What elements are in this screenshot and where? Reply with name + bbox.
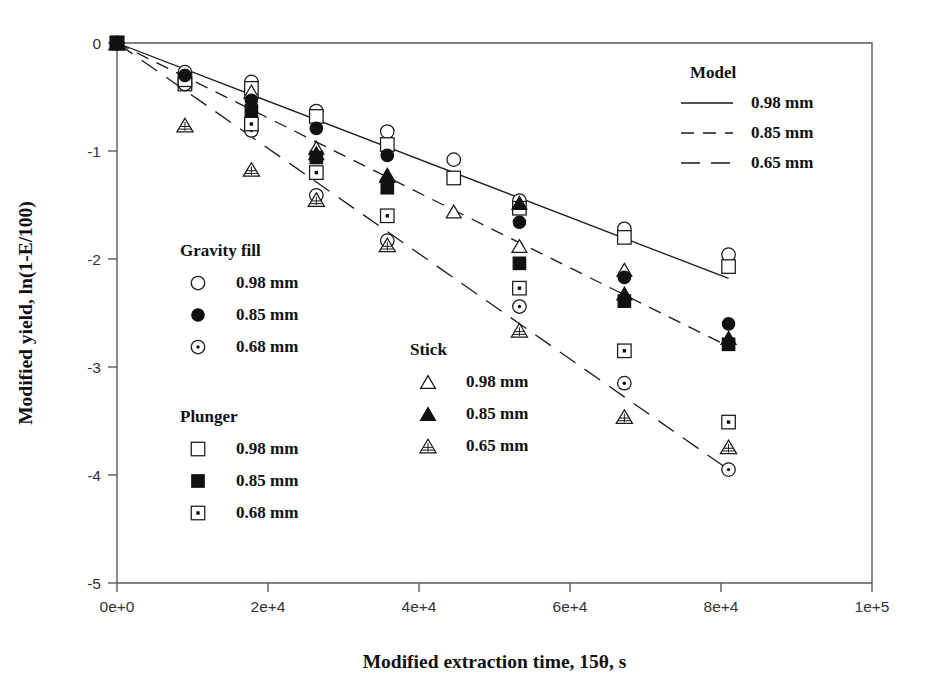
data-point bbox=[380, 169, 395, 182]
y-tick-label: 0 bbox=[92, 35, 101, 52]
legend-stick-swatch bbox=[420, 439, 436, 453]
legend-model-item-label: 0.85 mm bbox=[751, 123, 813, 142]
legend-stick-swatch bbox=[421, 376, 436, 389]
legend-gravity-fill: Gravity fill0.98 mm0.85 mm0.68 mm bbox=[180, 241, 298, 356]
filled-circle-marker bbox=[381, 149, 393, 161]
center-dot bbox=[196, 511, 199, 514]
data-point bbox=[513, 300, 527, 314]
x-tick-label: 0e+0 bbox=[100, 598, 135, 615]
legend-gravity-fill-swatch bbox=[192, 309, 204, 321]
data-point bbox=[446, 205, 461, 218]
filled-circle-marker bbox=[310, 122, 322, 134]
filled-circle-marker bbox=[179, 69, 191, 81]
series-filled-triangle bbox=[110, 37, 736, 345]
scatter-plot: 0e+02e+44e+46e+48e+41e+50-1-2-3-4-5Modif… bbox=[0, 0, 927, 689]
series-open-circle bbox=[110, 36, 735, 261]
y-tick-label: -1 bbox=[87, 143, 101, 160]
filled-triangle-marker bbox=[380, 169, 395, 182]
filled-square-marker bbox=[192, 475, 204, 487]
legend-stick: Stick0.98 mm0.85 mm0.65 mm bbox=[410, 340, 528, 455]
legend-stick-item-label: 0.65 mm bbox=[466, 436, 528, 455]
center-dot bbox=[315, 171, 318, 174]
data-point bbox=[381, 209, 395, 223]
filled-square-marker bbox=[381, 182, 393, 194]
legend-stick-item-label: 0.85 mm bbox=[466, 404, 528, 423]
y-axis-title: Modified yield, ln(1-E/100) bbox=[15, 201, 37, 425]
legend-plunger-swatch bbox=[192, 475, 204, 487]
x-tick-label: 4e+4 bbox=[402, 598, 437, 615]
filled-circle-marker bbox=[192, 309, 204, 321]
center-dot bbox=[727, 468, 730, 471]
data-point bbox=[310, 122, 322, 134]
open-square-marker bbox=[447, 171, 461, 185]
data-point bbox=[722, 463, 736, 477]
data-point bbox=[616, 410, 632, 424]
data-point bbox=[381, 182, 393, 194]
series-filled-square bbox=[111, 37, 735, 351]
open-circle-marker bbox=[191, 276, 205, 290]
y-tick-label: -5 bbox=[87, 575, 101, 592]
y-tick-label: -3 bbox=[87, 359, 101, 376]
open-square-marker bbox=[722, 260, 736, 274]
data-point bbox=[245, 117, 259, 131]
data-point bbox=[722, 318, 734, 330]
data-point bbox=[447, 171, 461, 185]
open-square-marker bbox=[618, 231, 632, 245]
legend-stick-swatch bbox=[421, 408, 436, 421]
data-point bbox=[513, 281, 527, 295]
data-point bbox=[177, 118, 193, 132]
open-circle-marker bbox=[447, 153, 461, 167]
data-point bbox=[617, 287, 632, 300]
x-tick-label: 6e+4 bbox=[553, 598, 588, 615]
data-point bbox=[447, 153, 461, 167]
legend-model-heading: Model bbox=[690, 63, 737, 82]
data-point bbox=[310, 110, 324, 124]
data-point bbox=[618, 231, 632, 245]
filled-triangle-marker bbox=[617, 287, 632, 300]
legend-plunger-swatch bbox=[191, 506, 205, 520]
data-point bbox=[511, 324, 527, 338]
legend-gravity-fill-swatch bbox=[191, 276, 205, 290]
filled-square-marker bbox=[513, 257, 525, 269]
y-tick-label: -2 bbox=[87, 251, 101, 268]
open-triangle-marker bbox=[512, 240, 527, 253]
center-dot bbox=[196, 345, 199, 348]
data-point bbox=[722, 260, 736, 274]
filled-circle-marker bbox=[618, 271, 630, 283]
legend-plunger-item-label: 0.68 mm bbox=[236, 503, 298, 522]
legend-model-item-label: 0.98 mm bbox=[751, 93, 813, 112]
series-open-square bbox=[110, 36, 735, 273]
filled-circle-marker bbox=[722, 318, 734, 330]
legend-stick-heading: Stick bbox=[410, 340, 447, 359]
data-point bbox=[243, 163, 259, 177]
data-point bbox=[179, 69, 191, 81]
x-tick-label: 8e+4 bbox=[704, 598, 739, 615]
open-circle-marker bbox=[381, 125, 395, 139]
legend-model: Model0.98 mm0.85 mm0.65 mm bbox=[681, 63, 813, 172]
legend-gravity-fill-swatch bbox=[191, 340, 205, 354]
data-point bbox=[381, 125, 395, 139]
center-dot bbox=[250, 122, 253, 125]
data-point bbox=[618, 344, 632, 358]
open-square-marker bbox=[191, 442, 205, 456]
legend-gravity-fill-heading: Gravity fill bbox=[180, 241, 261, 260]
legend-plunger-swatch bbox=[191, 442, 205, 456]
legend-stick-item-label: 0.98 mm bbox=[466, 372, 528, 391]
legend-model-item-label: 0.65 mm bbox=[751, 153, 813, 172]
legend-gravity-fill-item-label: 0.68 mm bbox=[236, 337, 298, 356]
legend-plunger: Plunger0.98 mm0.85 mm0.68 mm bbox=[180, 407, 298, 522]
data-point bbox=[720, 440, 736, 454]
filled-square-marker bbox=[245, 105, 257, 117]
center-dot bbox=[518, 305, 521, 308]
center-dot bbox=[518, 286, 521, 289]
data-point bbox=[310, 166, 324, 180]
data-point bbox=[513, 216, 525, 228]
legend-plunger-item-label: 0.85 mm bbox=[236, 471, 298, 490]
center-dot bbox=[623, 382, 626, 385]
data-point bbox=[618, 271, 630, 283]
open-square-marker bbox=[310, 110, 324, 124]
data-point bbox=[618, 376, 632, 390]
filled-triangle-marker bbox=[421, 408, 436, 421]
data-point bbox=[513, 257, 525, 269]
legend-plunger-heading: Plunger bbox=[180, 407, 238, 426]
